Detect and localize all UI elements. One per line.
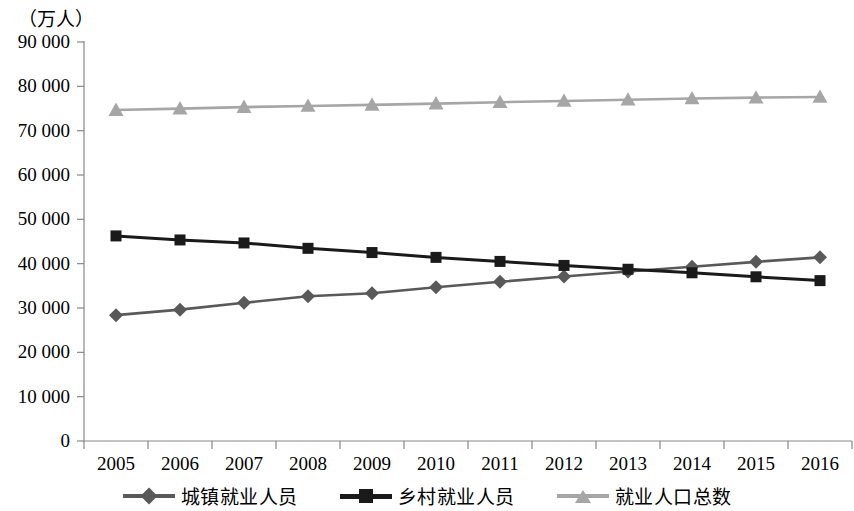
series-line [116, 97, 820, 110]
data-point-marker [239, 237, 250, 248]
data-point-marker [429, 280, 443, 294]
legend-glyph [140, 487, 157, 504]
square-marker-icon [340, 488, 392, 504]
x-tick-label: 2006 [148, 454, 212, 473]
x-tick-label: 2010 [404, 454, 468, 473]
data-point-marker [493, 275, 507, 289]
legend-label: 就业人口总数 [615, 482, 732, 509]
data-point-marker [237, 296, 251, 310]
legend-item-1[interactable]: 城镇就业人员 [123, 482, 298, 509]
employment-line-chart: （万人） 010 00020 00030 00040 00050 00060 0… [0, 0, 854, 511]
data-point-marker [557, 270, 571, 284]
data-point-marker [303, 243, 314, 254]
data-point-marker [623, 264, 634, 275]
data-point-marker [751, 271, 762, 282]
x-tick-label: 2008 [276, 454, 340, 473]
chart-legend: 城镇就业人员乡村就业人员就业人口总数 [0, 480, 854, 511]
data-point-marker [301, 289, 315, 303]
x-tick-label: 2011 [468, 454, 532, 473]
legend-label: 城镇就业人员 [181, 482, 298, 509]
data-point-marker [815, 275, 826, 286]
plot-area [0, 0, 854, 511]
series-2-square [111, 230, 826, 286]
data-point-marker [111, 230, 122, 241]
x-tick-label: 2014 [660, 454, 724, 473]
x-tick-label: 2015 [724, 454, 788, 473]
x-tick-label: 2005 [84, 454, 148, 473]
x-tick-label: 2009 [340, 454, 404, 473]
data-point-marker [749, 255, 763, 269]
x-tick-label: 2013 [596, 454, 660, 473]
series-line [116, 236, 820, 281]
data-point-marker [367, 247, 378, 258]
triangle-marker-icon [557, 488, 609, 504]
x-tick-label: 2007 [212, 454, 276, 473]
data-point-marker [687, 267, 698, 278]
series-line [116, 257, 820, 315]
data-point-marker [173, 303, 187, 317]
x-tick-label: 2016 [788, 454, 852, 473]
legend-item-3[interactable]: 就业人口总数 [557, 482, 732, 509]
series-3-triangle [109, 89, 828, 115]
data-point-marker [175, 234, 186, 245]
data-point-marker [559, 260, 570, 271]
legend-item-2[interactable]: 乡村就业人员 [340, 482, 515, 509]
legend-label: 乡村就业人员 [398, 482, 515, 509]
series-1-diamond [109, 250, 827, 322]
data-point-marker [431, 252, 442, 263]
data-point-marker [813, 250, 827, 264]
diamond-marker-icon [123, 488, 175, 504]
legend-glyph [359, 489, 373, 503]
data-point-marker [365, 286, 379, 300]
data-point-marker [495, 256, 506, 267]
x-tick-label: 2012 [532, 454, 596, 473]
data-point-marker [109, 308, 123, 322]
legend-glyph [575, 490, 591, 503]
